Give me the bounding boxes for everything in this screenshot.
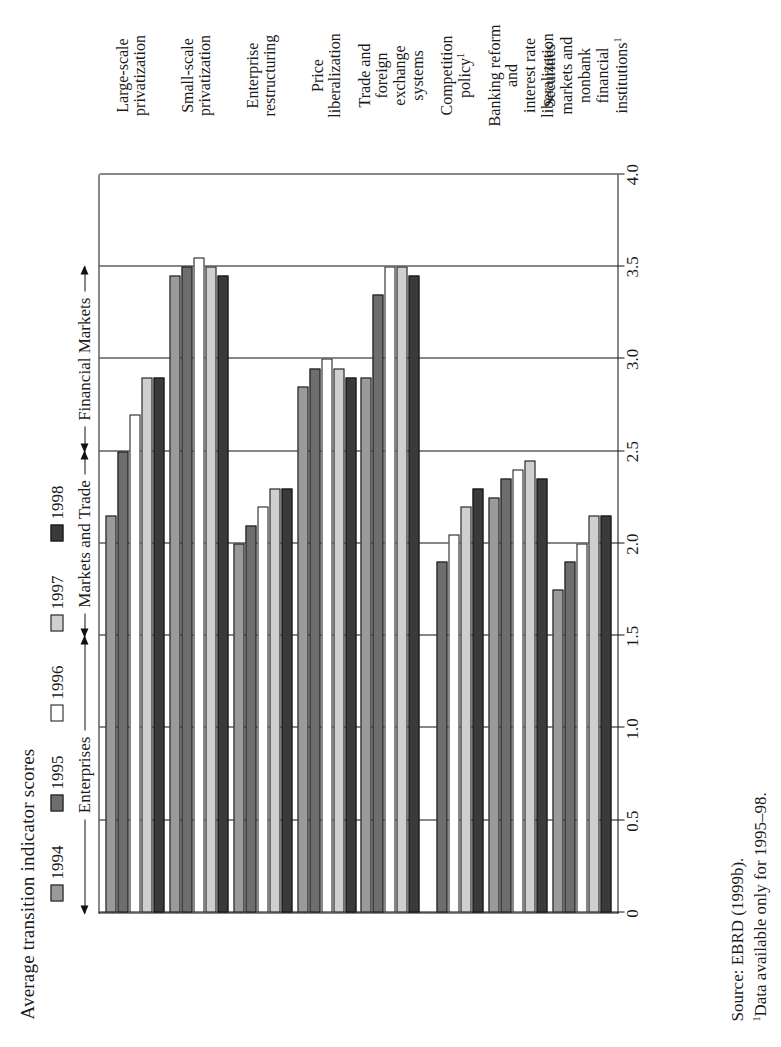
- bar-1994: [360, 377, 371, 912]
- footnote-text: Data available only for 1995–98.: [751, 792, 770, 1016]
- bar-group: [294, 174, 358, 912]
- legend-item-1998: 1998: [48, 485, 65, 541]
- legend-item-1997: 1997: [48, 575, 65, 631]
- bar-missing: [424, 174, 435, 912]
- legend-label: 1997: [48, 575, 65, 609]
- bar-1996: [321, 359, 332, 913]
- bar-1996: [129, 414, 140, 912]
- group-bracket-label: Enterprises: [74, 736, 94, 812]
- bar-1998: [536, 478, 547, 912]
- bar-1995: [372, 294, 383, 912]
- bar-1998: [472, 488, 483, 912]
- legend-swatch-icon: [50, 794, 63, 811]
- chart-title: Average transition indicator scores: [16, 26, 38, 1019]
- bar-groups: [99, 174, 617, 912]
- bar-1997: [460, 506, 471, 912]
- value-axis: 00.51.01.52.02.53.03.54.0: [618, 174, 648, 913]
- bar-group: [486, 174, 550, 912]
- legend-item-1995: 1995: [48, 755, 65, 811]
- chart-figure: Average transition indicator scores 1994…: [0, 0, 781, 1047]
- category-label: Securitiesmarkets andnonbankfinancialins…: [540, 4, 631, 146]
- bar-1994: [233, 543, 244, 912]
- bar-1995: [245, 525, 256, 912]
- bracket-arrow-right-icon: [84, 636, 85, 730]
- bar-1994: [169, 275, 180, 912]
- category-axis-labels: Large-scaleprivatizationSmall-scalepriva…: [0, 0, 781, 148]
- category-label: Small-scaleprivatization: [178, 4, 214, 146]
- legend-swatch-icon: [50, 614, 63, 631]
- bar-1997: [141, 377, 152, 912]
- legend-swatch-icon: [50, 884, 63, 901]
- bar-1998: [281, 488, 292, 912]
- bar-1997: [396, 266, 407, 912]
- bar-1997: [269, 488, 280, 912]
- group-bracket-row: EnterprisesMarkets and TradeFinancial Ma…: [72, 174, 98, 913]
- bar-1996: [384, 266, 395, 912]
- bar-1997: [333, 368, 344, 912]
- bar-1995: [436, 561, 447, 912]
- legend-item-1994: 1994: [48, 845, 65, 901]
- bar-1995: [309, 368, 320, 912]
- bracket-arrow-right-icon: [84, 266, 85, 291]
- bar-1998: [345, 377, 356, 912]
- bar-group: [358, 174, 422, 912]
- bar-1998: [408, 275, 419, 912]
- bar-1997: [524, 460, 535, 912]
- bar-1995: [181, 266, 192, 912]
- category-label: Enterpriserestructuring: [243, 4, 279, 146]
- footnote-marker: 1: [750, 1016, 761, 1021]
- bar-1996: [193, 257, 204, 912]
- value-tick-label: 3.5: [622, 256, 642, 277]
- bar-1994: [297, 386, 308, 912]
- legend-swatch-icon: [50, 524, 63, 541]
- bar-1996: [576, 543, 587, 912]
- bar-1998: [153, 377, 164, 912]
- bar-group: [422, 174, 486, 912]
- group-bracket-label: Markets and Trade: [74, 480, 94, 607]
- bar-group: [103, 174, 167, 912]
- value-tick-label: 4.0: [622, 163, 642, 184]
- category-label: Trade andforeignexchangesystems: [355, 4, 427, 146]
- source-line: Source: EBRD (1999b).: [726, 792, 749, 1021]
- plot-area: [98, 174, 618, 913]
- category-label: Large-scaleprivatization: [113, 4, 149, 146]
- value-tick-label: 1.0: [622, 718, 642, 739]
- bar-1994: [552, 589, 563, 912]
- legend-label: 1995: [48, 755, 65, 789]
- category-label: Competitionpolicy1: [437, 4, 474, 146]
- value-tick-label: 2.0: [622, 533, 642, 554]
- chart-legend: 19941995199619971998: [44, 26, 68, 901]
- group-bracket: Financial Markets: [74, 266, 94, 451]
- bar-1994: [105, 515, 116, 912]
- value-tick-label: 1.5: [622, 625, 642, 646]
- legend-label: 1994: [48, 845, 65, 879]
- bracket-arrow-left-icon: [84, 613, 85, 636]
- category-ticks: [611, 174, 618, 912]
- value-tick-label: 3.0: [622, 348, 642, 369]
- value-tick-label: 2.5: [622, 441, 642, 462]
- bar-1994: [488, 497, 499, 912]
- legend-item-1996: 1996: [48, 665, 65, 721]
- category-label: Priceliberalization: [308, 4, 344, 146]
- group-bracket-label: Financial Markets: [74, 297, 94, 420]
- value-tick-label: 0: [622, 909, 642, 918]
- bar-group: [231, 174, 295, 912]
- bar-1995: [117, 451, 128, 912]
- figure-footer: Source: EBRD (1999b). 1Data available on…: [726, 792, 773, 1021]
- rotated-page-canvas: Average transition indicator scores 1994…: [0, 0, 781, 1047]
- bracket-arrow-left-icon: [84, 819, 85, 913]
- bar-1998: [217, 275, 228, 912]
- bar-1997: [205, 266, 216, 912]
- bar-1995: [500, 478, 511, 912]
- bar-1996: [257, 506, 268, 912]
- footnote-line: 1Data available only for 1995–98.: [749, 792, 773, 1021]
- group-bracket: Markets and Trade: [74, 451, 94, 636]
- value-tick-label: 0.5: [622, 810, 642, 831]
- group-bracket: Enterprises: [74, 636, 94, 913]
- legend-label: 1996: [48, 665, 65, 699]
- bracket-arrow-right-icon: [84, 451, 85, 474]
- bar-group: [549, 174, 613, 912]
- bar-1998: [600, 515, 611, 912]
- bar-1996: [448, 534, 459, 912]
- legend-label: 1998: [48, 485, 65, 519]
